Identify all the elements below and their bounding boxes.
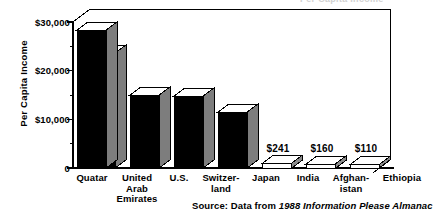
- source-title: 1988 Information Please Almanac: [279, 200, 433, 211]
- x-label-switzerland: Switzer- land: [196, 173, 246, 194]
- x-label-united-arab-emirates: United Arab Emirates: [112, 173, 162, 205]
- data-label-afghanistan: $160: [300, 143, 344, 154]
- x-label-ethiopia: Ethiopia: [374, 173, 430, 184]
- x-label-afghanistan: Afghan- istan: [326, 173, 376, 194]
- x-label-quatar: Quatar: [68, 173, 116, 184]
- bar-japan: [218, 104, 258, 168]
- bar-us: [130, 87, 170, 168]
- source-prefix: Source: Data from: [192, 200, 279, 211]
- x-label-us: U.S.: [160, 173, 198, 184]
- source-note: Source: Data from 1988 Information Pleas…: [192, 200, 436, 211]
- bar-switzerland: [174, 88, 214, 168]
- bar-quatar: [77, 22, 117, 168]
- data-label-ethiopia: $110: [344, 143, 388, 154]
- x-label-india: India: [286, 173, 330, 184]
- chart-container: Per Capita Income Per Capita Income $30,…: [0, 0, 436, 215]
- data-label-india: $241: [256, 143, 300, 154]
- x-label-japan: Japan: [244, 173, 288, 184]
